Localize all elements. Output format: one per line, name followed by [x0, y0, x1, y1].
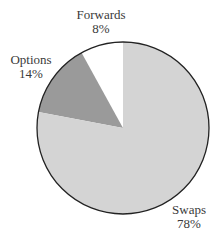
forwards-value: 8%: [92, 21, 110, 36]
pie-chart: Forwards 8% Options 14% Swaps 78%: [0, 0, 221, 243]
swaps-label: Swaps: [172, 202, 206, 217]
pie-slices: [37, 42, 209, 214]
options-label: Options: [10, 52, 51, 67]
options-value: 14%: [19, 66, 43, 81]
forwards-label: Forwards: [76, 7, 125, 22]
swaps-value: 78%: [177, 216, 201, 231]
